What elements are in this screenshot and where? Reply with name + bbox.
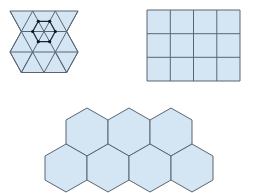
triangular-tiling [10,11,78,73]
hexagonal-tiling [45,108,213,192]
square-tiling [147,10,240,81]
tessellations-diagram [0,0,253,193]
